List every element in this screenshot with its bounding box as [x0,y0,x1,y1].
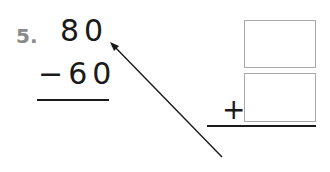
arrow-icon [0,0,330,172]
